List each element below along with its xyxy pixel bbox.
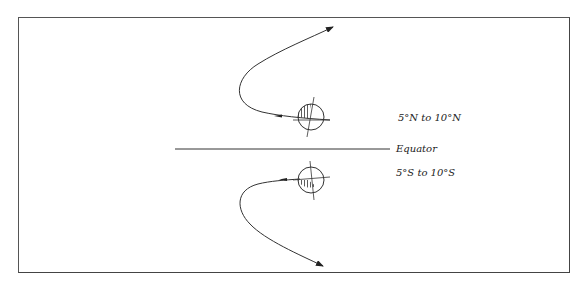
equator-label: Equator	[396, 143, 437, 154]
north-cyclone-icon	[293, 97, 330, 137]
cyclone-track-diagram	[0, 0, 587, 288]
south-cyclone-icon	[293, 161, 330, 200]
north-latitude-label: 5°N to 10°N	[398, 112, 461, 123]
south-storm-track	[240, 178, 323, 266]
south-latitude-label: 5°S to 10°S	[396, 167, 455, 178]
north-storm-track	[239, 27, 333, 120]
